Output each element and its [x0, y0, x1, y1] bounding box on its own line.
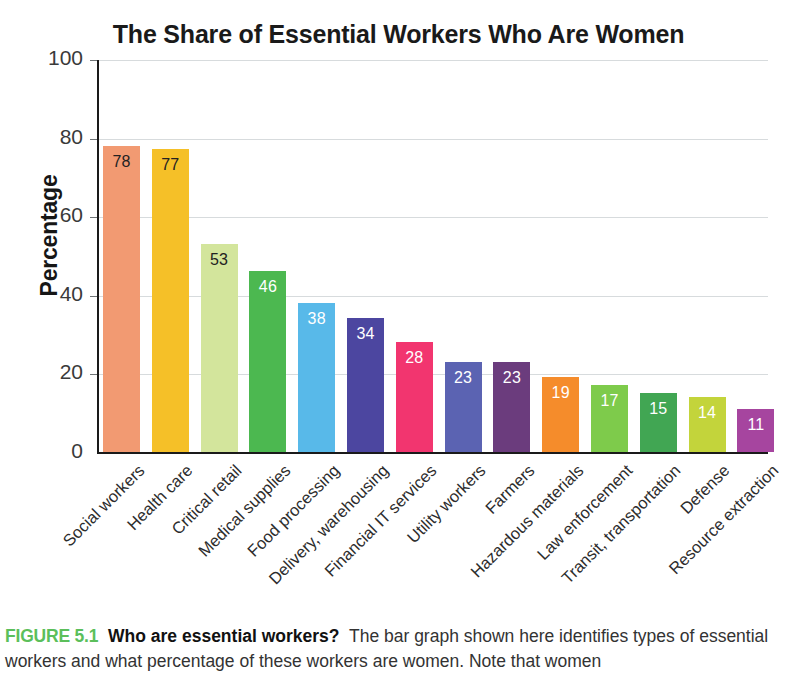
- bar: 11: [737, 409, 774, 452]
- figure-container: The Share of Essential Workers Who Are W…: [0, 0, 797, 691]
- bar-value-label: 38: [298, 310, 335, 328]
- x-axis-line: [97, 452, 768, 454]
- gridline-60: [97, 217, 768, 218]
- y-axis-line: [97, 60, 99, 453]
- bar: 23: [493, 362, 530, 452]
- bar: 17: [591, 385, 628, 452]
- y-tick-label-100: 100: [25, 46, 83, 70]
- bar: 34: [347, 318, 384, 452]
- figure-caption: FIGURE 5.1 Who are essential workers? Th…: [5, 624, 795, 674]
- bar: 28: [396, 342, 433, 452]
- bar: 38: [298, 303, 335, 452]
- bar-value-label: 78: [103, 153, 140, 171]
- figure-question: Who are essential workers?: [108, 626, 339, 646]
- bar: 19: [542, 377, 579, 452]
- bar-value-label: 23: [493, 369, 530, 387]
- chart-title: The Share of Essential Workers Who Are W…: [0, 20, 797, 49]
- y-tick-label-40: 40: [25, 282, 83, 306]
- bar-value-label: 15: [640, 400, 677, 418]
- bar: 78: [103, 146, 140, 453]
- bar: 46: [249, 271, 286, 452]
- figure-number: FIGURE 5.1: [5, 626, 98, 646]
- gridline-80: [97, 139, 768, 140]
- bar-value-label: 28: [396, 349, 433, 367]
- bar: 14: [689, 397, 726, 452]
- gridline-100: [97, 60, 768, 61]
- bar: 53: [201, 244, 238, 452]
- y-tick-label-60: 60: [25, 203, 83, 227]
- bar-value-label: 53: [201, 251, 238, 269]
- bar-value-label: 19: [542, 384, 579, 402]
- y-tick-60: [90, 217, 97, 218]
- bar-value-label: 17: [591, 392, 628, 410]
- plot-area: 7877534638342823231917151411: [97, 60, 768, 453]
- gridline-40: [97, 296, 768, 297]
- bar-value-label: 11: [737, 416, 774, 434]
- y-tick-20: [90, 374, 97, 375]
- bar-value-label: 14: [689, 404, 726, 422]
- y-tick-100: [90, 60, 97, 61]
- bar: 77: [152, 149, 189, 452]
- bar: 23: [445, 362, 482, 452]
- bar-value-label: 77: [152, 156, 189, 174]
- y-tick-label-20: 20: [25, 360, 83, 384]
- bar-value-label: 46: [249, 278, 286, 296]
- bar: 15: [640, 393, 677, 452]
- y-tick-40: [90, 296, 97, 297]
- bar-value-label: 23: [445, 369, 482, 387]
- y-tick-80: [90, 139, 97, 140]
- y-tick-label-80: 80: [25, 125, 83, 149]
- bar-value-label: 34: [347, 325, 384, 343]
- y-tick-label-0: 0: [25, 439, 83, 463]
